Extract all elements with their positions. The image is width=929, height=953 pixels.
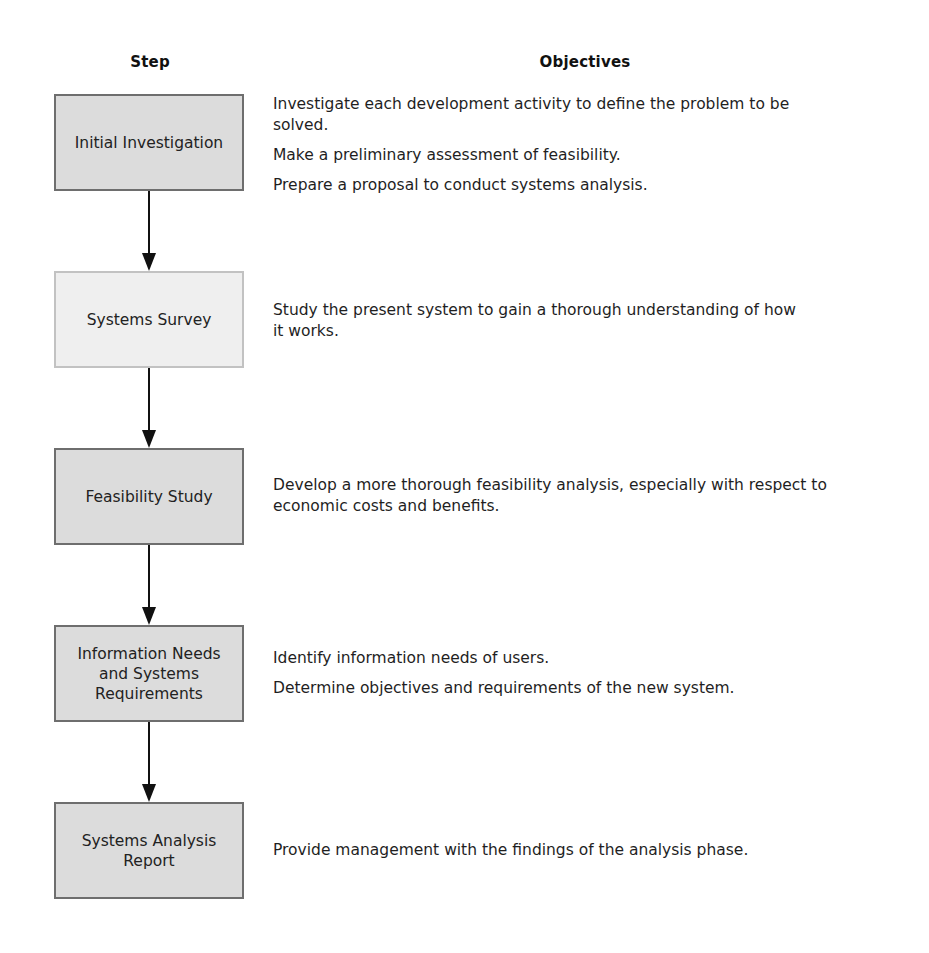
flow-arrow-1	[148, 191, 150, 255]
step-box-initial-investigation: Initial Investigation	[54, 94, 244, 191]
objectives-feasibility-study: Develop a more thorough feasibility anal…	[273, 475, 873, 517]
flow-arrow-4	[148, 722, 150, 786]
objective-text: Study the present system to gain a thoro…	[273, 300, 803, 342]
arrowhead-icon	[142, 430, 156, 448]
arrowhead-icon	[142, 784, 156, 802]
objectives-initial-investigation: Investigate each development activity to…	[273, 94, 848, 196]
flow-arrow-2	[148, 368, 150, 432]
step-label: Initial Investigation	[69, 133, 229, 153]
objectives-systems-survey: Study the present system to gain a thoro…	[273, 300, 803, 342]
objective-text: Prepare a proposal to conduct systems an…	[273, 175, 848, 196]
objective-text: Make a preliminary assessment of feasibi…	[273, 145, 848, 166]
arrowhead-icon	[142, 607, 156, 625]
column-header-step: Step	[100, 53, 200, 71]
step-box-information-needs: Information Needs and Systems Requiremen…	[54, 625, 244, 722]
objective-text: Determine objectives and requirements of…	[273, 678, 873, 699]
arrowhead-icon	[142, 253, 156, 271]
step-label: Information Needs and Systems Requiremen…	[74, 644, 224, 704]
step-box-feasibility-study: Feasibility Study	[54, 448, 244, 545]
objective-text: Identify information needs of users.	[273, 648, 873, 669]
objectives-information-needs: Identify information needs of users. Det…	[273, 648, 873, 699]
step-box-systems-analysis-report: Systems Analysis Report	[54, 802, 244, 899]
objective-text: Provide management with the findings of …	[273, 840, 873, 861]
objective-text: Develop a more thorough feasibility anal…	[273, 475, 873, 517]
objectives-systems-analysis-report: Provide management with the findings of …	[273, 840, 873, 861]
step-label: Systems Analysis Report	[74, 831, 224, 871]
flow-arrow-3	[148, 545, 150, 609]
step-box-systems-survey: Systems Survey	[54, 271, 244, 368]
column-header-objectives: Objectives	[500, 53, 670, 71]
step-label: Feasibility Study	[79, 487, 218, 507]
objective-text: Investigate each development activity to…	[273, 94, 848, 136]
step-label: Systems Survey	[81, 310, 218, 330]
